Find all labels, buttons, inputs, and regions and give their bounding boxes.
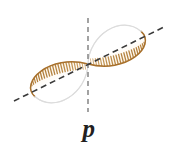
p-orbital-figure: p xyxy=(0,0,178,153)
orbital-label: p xyxy=(0,114,178,144)
upper-right-lobe-body xyxy=(78,17,151,78)
lower-left-lobe xyxy=(21,48,98,113)
upper-right-lobe xyxy=(78,15,155,80)
diagonal-dashed-axis-line xyxy=(14,26,166,101)
lower-left-lobe-body xyxy=(25,51,98,112)
